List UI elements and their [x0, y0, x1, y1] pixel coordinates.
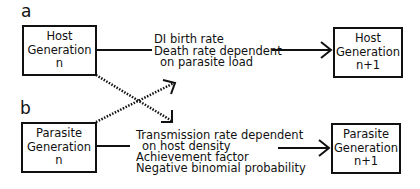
- box-line: Generation: [336, 46, 400, 60]
- host-to-parasite-dotted-arrow: [96, 75, 172, 121]
- box-line: n+1: [354, 155, 378, 169]
- parasite-generation-n-box: Parasite Generation n: [21, 122, 97, 173]
- box-line: Parasite: [343, 128, 389, 142]
- host-transition-description: DI birth rate Death rate dependent on pa…: [154, 34, 282, 69]
- parasite-transition-description: Transmission rate dependent on host dens…: [136, 130, 306, 174]
- box-line: Generation: [334, 142, 398, 156]
- host-generation-n-box: Host Generation n: [22, 25, 97, 76]
- box-line: n+1: [356, 59, 380, 73]
- box-line: Host: [46, 30, 72, 44]
- parasite-generation-n-plus-1-box: Parasite Generation n+1: [331, 123, 401, 174]
- dotted-arrowhead-up-icon: [163, 80, 175, 94]
- box-line: Parasite: [36, 127, 82, 141]
- box-line: Generation: [27, 141, 91, 155]
- panel-label-a: a: [21, 3, 31, 20]
- panel-label-b: b: [20, 100, 31, 117]
- description-line: Negative binomial probability: [136, 163, 306, 174]
- host-generation-n-plus-1-box: Host Generation n+1: [333, 27, 403, 78]
- box-line: Generation: [27, 44, 91, 58]
- box-line: n: [55, 154, 62, 168]
- box-line: Host: [355, 32, 381, 46]
- description-line: on parasite load: [154, 57, 282, 69]
- box-line: n: [56, 57, 63, 71]
